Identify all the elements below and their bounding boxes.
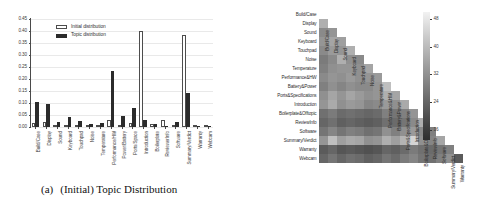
y-tick-label: 0.25 [18,65,27,70]
heatmap-cell [328,91,337,100]
figure-container: 0.450.400.350.300.250.200.150.100.050.00… [0,0,489,224]
heatmap-column-label: Software [443,147,448,164]
colorbar-tick-label: 24 [434,100,439,105]
heatmap-cell [319,100,328,109]
heatmap-row: Temperature [319,64,463,73]
heatmap-row: Performance&HW [319,73,463,82]
heatmap-cell [346,145,355,154]
heatmap-cell [346,118,355,127]
bar-group [116,19,127,127]
y-tick-label: 0.20 [18,77,27,82]
heatmap-cell [364,154,373,163]
heatmap-row: Noise [319,55,463,64]
heatmap-cell [364,100,373,109]
heatmap-cell [364,109,373,118]
heatmap-row-label: Software [300,127,317,136]
y-tick-label: 0.10 [18,101,27,106]
heatmap-cell [328,154,337,163]
heatmap-row-label: Battery&Power [288,82,317,91]
heatmap-column-label: ReviewInfo [434,138,439,159]
x-tick-mark [89,127,90,129]
heatmap-row: Software [319,127,463,136]
heatmap-row-label: Summary/Verdict [284,136,317,145]
heatmap-cell [328,73,337,82]
heatmap-cell [346,154,355,163]
heatmap-cell [328,127,337,136]
colorbar-tick-mark [430,102,432,103]
x-tick-mark [165,127,166,129]
heatmap-cell [319,154,328,163]
heatmap-cell [319,127,328,136]
heatmap-cell [319,145,328,154]
bar-chart-legend: Initial distributionTopic distribution [56,25,106,38]
heatmap-column-label: Display [335,39,340,53]
x-tick-mark [46,127,47,129]
heatmap-cell [400,154,409,163]
heatmap-cell [373,136,382,145]
heatmap-cell [355,91,364,100]
heatmap-cell [373,109,382,118]
bar-group [202,19,213,127]
legend-item: Topic distribution [56,33,106,38]
bar [186,93,190,127]
heatmap-row: Build/Case [319,10,463,19]
y-tick-label: 0.05 [18,113,27,118]
heatmap-cell [391,145,400,154]
heatmap-cell [337,91,346,100]
x-tick-label: Temperature [102,131,107,156]
heatmap-column-label: Noise [371,75,376,86]
heatmap-cell [373,127,382,136]
bar-group [105,19,116,127]
bar-group [170,19,181,127]
bar-group [181,19,192,127]
y-tick-label: 0.45 [18,17,27,22]
heatmap-row-label: Touchpad [298,46,317,55]
x-tick-label: Summary/Verdict [188,131,193,164]
colorbar-tick-label: 40 [434,44,439,49]
heatmap-cell [373,145,382,154]
x-tick-label: Software [177,131,182,148]
heatmap-cell [337,154,346,163]
heatmap-plot-area: Build/CaseDisplaySoundKeyboardTouchpadNo… [319,10,463,163]
bar [143,120,147,127]
heatmap-cell [319,64,328,73]
heatmap-column-label: Build/Case [326,30,331,51]
heatmap-cell [328,118,337,127]
heatmap-row-label: Sound [304,28,317,37]
heatmap-cell [355,109,364,118]
x-tick-mark [197,127,198,129]
heatmap-row-label: Boilerplate&Offtopic [279,109,317,118]
heatmap-cell [355,118,364,127]
heatmap-cell [319,118,328,127]
heatmap-column-label: Touchpad [362,66,367,85]
heatmap-cell [319,55,328,64]
colorbar-tick-label: 32 [434,72,439,77]
heatmap-cell [319,91,328,100]
x-tick-label: Display [48,131,53,145]
x-tick-mark [122,127,123,129]
x-tick-label: Noise [91,131,96,142]
heatmap-cell [364,145,373,154]
x-tick-mark [78,127,79,129]
heatmap-column-label: Ports&Specifications [407,111,412,150]
heatmap-cell [328,64,337,73]
colorbar-tick-mark [430,130,432,131]
heatmap-cell [373,118,382,127]
heatmap-colorbar: 4840322416 [423,12,430,140]
heatmap-column-label: Introduction [416,120,421,142]
heatmap-cell [355,145,364,154]
caption-a-text: (Initial) Topic Distribution [60,183,177,195]
heatmap-row-label: Keyboard [298,37,316,46]
x-tick-mark [132,127,133,129]
heatmap-column-label: Battery&Power [398,102,403,131]
heatmap-row-label: Warranty [299,145,316,154]
bar-chart-plot-area: 0.450.400.350.300.250.200.150.100.050.00… [30,18,213,128]
legend-swatch [56,25,67,29]
heatmap-cell [391,136,400,145]
bar-group [127,19,138,127]
heatmap-cell [346,91,355,100]
heatmap-cell [355,136,364,145]
x-tick-mark [175,127,176,129]
x-tick-mark [143,127,144,129]
heatmap-cell [328,55,337,64]
